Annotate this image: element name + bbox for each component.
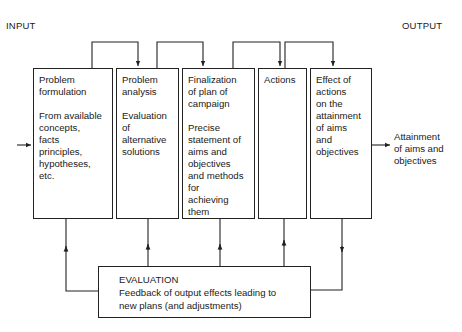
stage-text: Problem formulation From available conce… xyxy=(39,74,110,182)
stage-text: Effect of actions on the attainment of a… xyxy=(316,74,369,158)
evaluation-box: EVALUATION Feedback of output effects le… xyxy=(98,266,311,318)
stage-box-effect-of-actions: Effect of actions on the attainment of a… xyxy=(310,68,372,219)
stage-box-problem-analysis: Problem analysis Evaluation of alternati… xyxy=(116,68,179,219)
stage-text: Actions xyxy=(264,74,304,86)
stage-text: Finalization of plan of campaign Precise… xyxy=(188,74,252,218)
stage-text: Problem analysis Evaluation of alternati… xyxy=(122,74,176,158)
stage-box-finalization: Finalization of plan of campaign Precise… xyxy=(182,68,255,219)
output-result-text: Attainment of aims and objectives xyxy=(394,131,444,167)
evaluation-text: EVALUATION Feedback of output effects le… xyxy=(119,273,308,312)
stage-box-problem-formulation: Problem formulation From available conce… xyxy=(33,68,113,219)
stage-box-actions: Actions xyxy=(258,68,307,219)
